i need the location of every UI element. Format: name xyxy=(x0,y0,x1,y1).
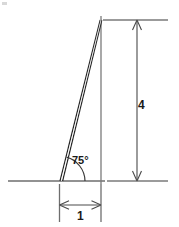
geometry-figure: 75° 4 1 xyxy=(0,0,179,227)
base-dimension-label: 1 xyxy=(77,210,84,222)
triangle-diagram-svg xyxy=(0,0,179,227)
height-dimension-label: 4 xyxy=(138,99,145,111)
angle-label-75: 75° xyxy=(72,155,89,166)
